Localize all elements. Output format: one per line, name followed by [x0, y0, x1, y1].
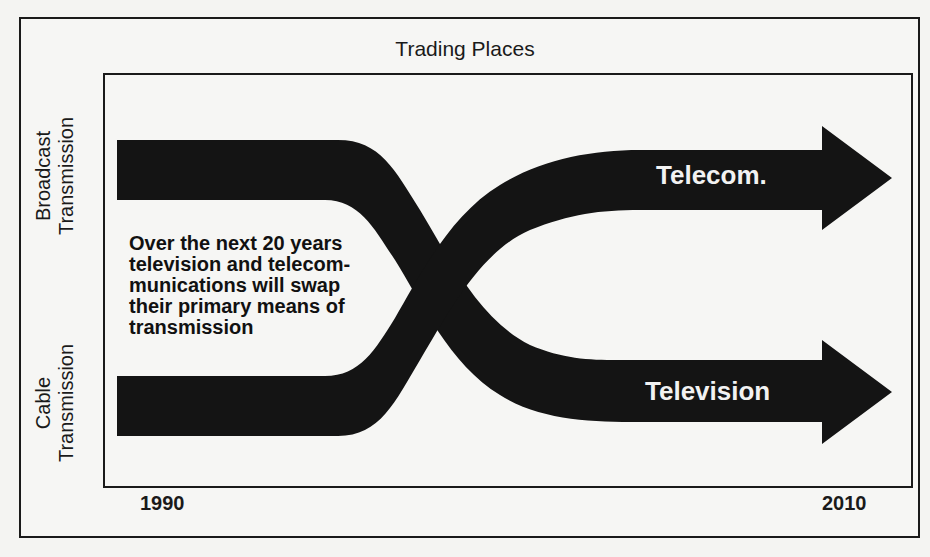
television-arrow-label: Television [645, 376, 770, 407]
annotation-line: munications will swap [129, 275, 429, 296]
telecom-arrow-label: Telecom. [656, 160, 767, 191]
annotation-text: Over the next 20 years television and te… [129, 233, 429, 338]
timeline-start-year: 1990 [140, 492, 185, 515]
annotation-line: television and telecom- [129, 254, 429, 275]
annotation-line: their primary means of [129, 296, 429, 317]
timeline-end-year: 2010 [822, 492, 867, 515]
annotation-line: Over the next 20 years [129, 233, 429, 254]
annotation-line: transmission [129, 317, 429, 338]
